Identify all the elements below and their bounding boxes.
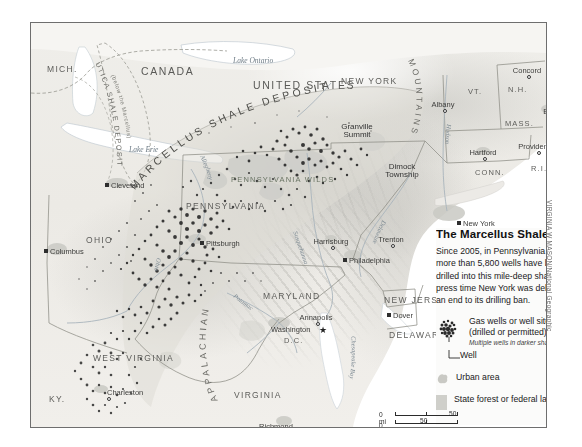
city-marker-columbus	[44, 249, 48, 253]
city-marker-concord	[527, 75, 531, 79]
city-marker-hartford	[483, 157, 487, 161]
svg-text:APPALACHIAN: APPALACHIAN	[198, 305, 220, 403]
label-potomac-river: Potomac	[232, 291, 255, 311]
label-marcellus-shale-deposit: MARCELLUS SHALE DEPOSIT	[127, 80, 330, 192]
city-marker-pittsburgh	[200, 241, 204, 245]
legend-item-forest: State forest or federal land	[436, 394, 547, 410]
legend-label-gas-wells: Gas wells or well sites (drilled or perm…	[469, 316, 547, 339]
panel-title: The Marcellus Shale	[436, 228, 547, 240]
scale-km-max: 50	[420, 417, 427, 424]
svg-text:Hudson: Hudson	[444, 123, 452, 144]
label-ohio-river: Ohio	[153, 258, 162, 272]
legend-item-urban: Urban area	[436, 371, 547, 385]
label-delaware-river: Delaware	[371, 219, 388, 246]
legend-label-forest: State forest or federal land	[454, 394, 547, 405]
svg-text:UTICA SHALE DEPOSIT: UTICA SHALE DEPOSIT	[93, 60, 124, 167]
city-marker-philadelphia	[343, 258, 347, 262]
map-canvas[interactable]: UTICA SHALE DEPOSIT (below the Marcellus…	[30, 22, 547, 428]
forest-land-swatch	[436, 395, 447, 410]
svg-text:Potomac: Potomac	[232, 291, 255, 311]
label-appalachian: APPALACHIAN	[198, 305, 220, 403]
single-well-icon	[436, 350, 462, 362]
svg-text:Delaware: Delaware	[371, 219, 388, 246]
label-mountains: MOUNTAINS	[406, 57, 424, 137]
legend-item-gas-wells: Gas wells or well sites (drilled or perm…	[436, 316, 547, 348]
city-marker-cleveland	[105, 183, 109, 187]
city-marker-providence	[537, 151, 541, 155]
legend-label-well: Well	[460, 350, 477, 361]
label-utica-shale-deposit: UTICA SHALE DEPOSIT	[93, 60, 124, 167]
scale-km-zero: 0 km	[379, 422, 388, 428]
label-susquehanna-river: Susquehanna	[292, 230, 310, 265]
city-marker-dover	[387, 313, 391, 317]
city-marker-charleston	[107, 397, 111, 401]
city-marker-new-york	[457, 221, 461, 225]
city-marker-albany	[443, 109, 447, 113]
label-hudson-river: Hudson	[444, 123, 452, 144]
urban-area-swatch	[436, 372, 449, 385]
city-marker-trenton	[391, 244, 395, 248]
svg-text:Allegheny: Allegheny	[199, 153, 216, 181]
capital-marker-washington: ★	[319, 326, 327, 335]
svg-text:Ohio: Ohio	[153, 258, 162, 272]
city-marker-harrisburg	[331, 246, 335, 250]
well-cluster-icon	[436, 317, 462, 343]
svg-text:Susquehanna: Susquehanna	[292, 230, 310, 265]
legend-sub-gas-wells: Multiple wells in darker shades	[469, 339, 547, 348]
svg-text:Chesapeake Bay: Chesapeake Bay	[349, 336, 358, 380]
credit-text: VIRGINIA W MASON/National Geographic	[546, 200, 553, 332]
info-panel: The Marcellus Shale Since 2005, in Penns…	[436, 228, 547, 425]
map-figure: UTICA SHALE DEPOSIT (below the Marcellus…	[0, 0, 582, 447]
label-chesapeake-bay: Chesapeake Bay	[349, 336, 358, 380]
legend-label-urban: Urban area	[456, 372, 499, 383]
svg-text:MOUNTAINS: MOUNTAINS	[406, 57, 424, 137]
svg-text:MARCELLUS SHALE DEPOSIT: MARCELLUS SHALE DEPOSIT	[127, 80, 330, 192]
legend-item-well: Well	[436, 350, 547, 362]
panel-body: Since 2005, in Pennsylvania alone, more …	[436, 245, 547, 307]
scale-mi-max: 50	[449, 410, 456, 417]
label-allegheny-river: Allegheny	[199, 153, 216, 181]
